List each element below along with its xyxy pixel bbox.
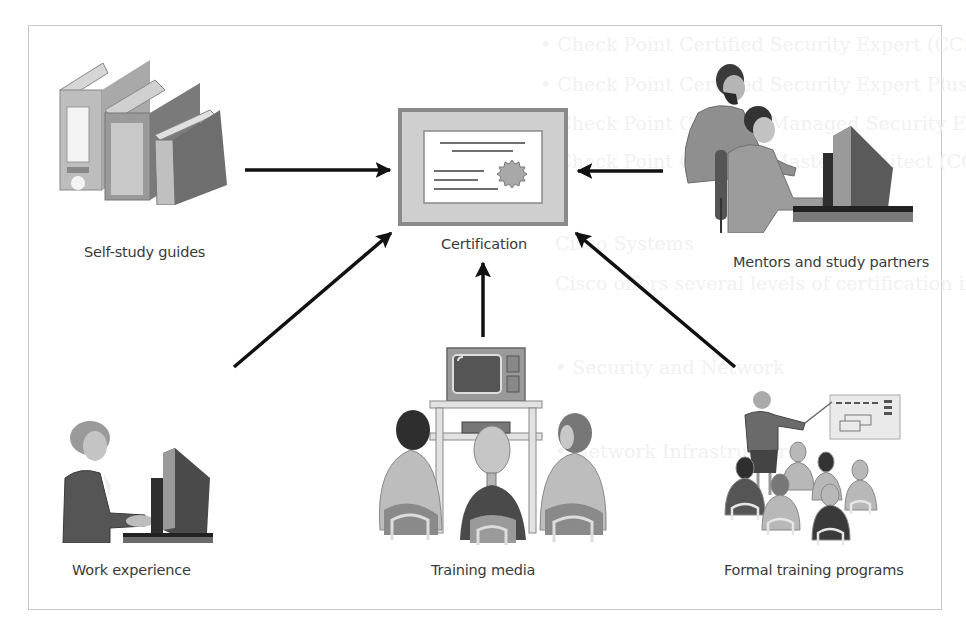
self-study-node xyxy=(55,55,230,205)
tv-audience-icon xyxy=(370,345,610,545)
formal-label: Formal training programs xyxy=(724,562,903,578)
certification-label: Certification xyxy=(441,236,527,252)
arrow-work-to-certification xyxy=(234,233,391,367)
media-label: Training media xyxy=(431,562,535,578)
mentors-node xyxy=(668,58,918,233)
media-node xyxy=(370,345,610,545)
self-study-label: Self-study guides xyxy=(84,244,205,260)
books-icon xyxy=(55,55,230,205)
worker-at-computer-icon xyxy=(55,418,215,543)
work-label: Work experience xyxy=(72,562,191,578)
classroom-presentation-icon xyxy=(720,390,905,550)
certification-node xyxy=(398,108,570,228)
mentor-at-computer-icon xyxy=(668,58,918,233)
certificate-icon xyxy=(398,108,570,228)
formal-node xyxy=(720,390,905,550)
mentors-label: Mentors and study partners xyxy=(733,254,929,270)
work-node xyxy=(55,418,215,543)
